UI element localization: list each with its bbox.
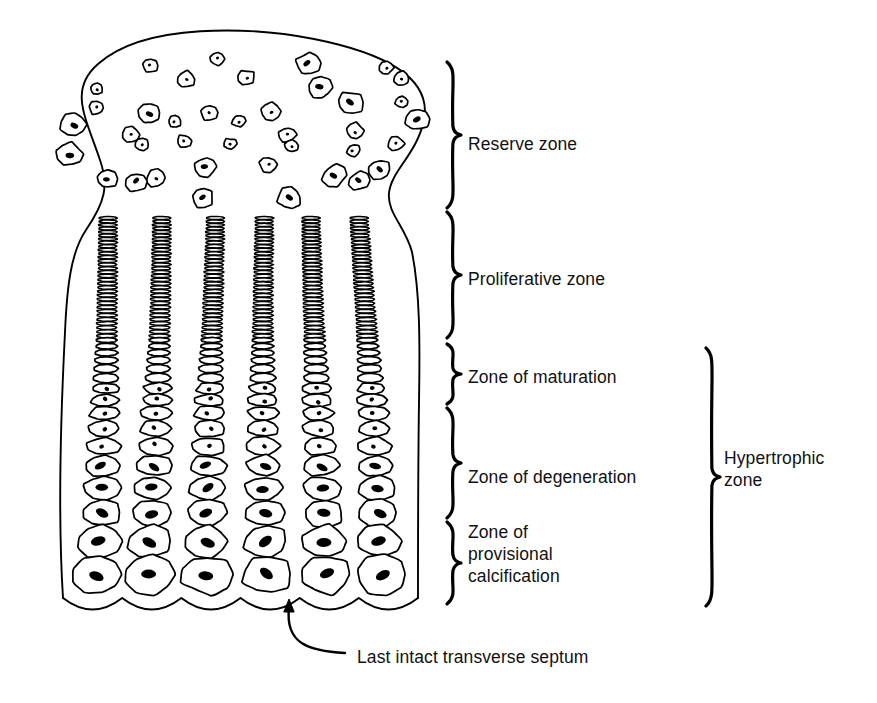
- callout-last-intact-transverse-septum: Last intact transverse septum: [357, 646, 588, 668]
- zone-label-reserve: Reserve zone: [468, 133, 577, 155]
- cartilage-diagram: [0, 0, 877, 703]
- zone-label-proliferative: Proliferative zone: [468, 268, 605, 290]
- reserve-zone-cells: [56, 52, 430, 208]
- group-label-hypertrophic: Hypertrophic zone: [724, 447, 824, 491]
- chondrocyte-columns: [73, 216, 405, 595]
- zone-label-calcification: Zone of provisional calcification: [468, 521, 560, 587]
- zone-label-degeneration: Zone of degeneration: [468, 466, 636, 488]
- growth-plate-figure: Reserve zone Proliferative zone Zone of …: [0, 0, 877, 703]
- zone-label-maturation: Zone of maturation: [468, 366, 617, 388]
